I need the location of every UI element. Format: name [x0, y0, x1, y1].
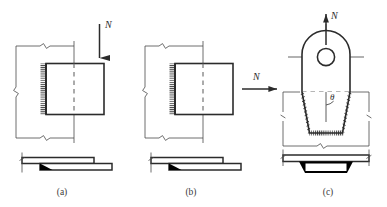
panel-c-pin-hole: [317, 48, 334, 65]
panel-c-angle-label: θ: [330, 92, 335, 102]
figure-canvas: N (a): [0, 0, 387, 207]
panel-c-caption: (c): [323, 187, 334, 198]
panel-c-weld-inner-void: [306, 164, 347, 172]
engineering-figure: N (a): [0, 0, 387, 207]
panel-a-caption: (a): [57, 187, 68, 198]
panel-b-caption: (b): [185, 187, 196, 198]
panel-c-load-label: N: [330, 10, 339, 21]
panel-b-load-label: N: [252, 71, 261, 82]
panel-a-load-label: N: [104, 19, 113, 30]
